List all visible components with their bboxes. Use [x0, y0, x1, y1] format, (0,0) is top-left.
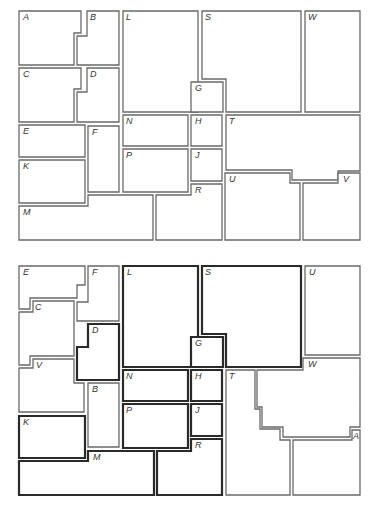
piece-label: V: [36, 360, 43, 370]
piece-t: T: [226, 115, 360, 180]
piece-label: D: [90, 69, 97, 79]
piece-k: K: [19, 416, 85, 458]
piece-a: A: [19, 11, 81, 65]
piece-w: W: [257, 358, 360, 437]
piece-w: W: [305, 11, 360, 112]
piece-label: P: [126, 150, 132, 160]
piece-n: N: [123, 115, 188, 146]
piece-shape: [19, 301, 74, 365]
top-tiling-panel: ABLSWCDGNHTEFPJKURVM: [19, 11, 360, 240]
piece-k: K: [19, 160, 85, 203]
piece-shape: [123, 149, 188, 192]
piece-b: B: [88, 383, 119, 447]
piece-label: R: [195, 185, 202, 195]
piece-shape: [123, 115, 188, 146]
piece-label: B: [90, 12, 96, 22]
piece-shape: [123, 11, 198, 112]
piece-label: F: [92, 267, 98, 277]
piece-shape: [77, 11, 119, 65]
piece-shape: [305, 266, 360, 355]
piece-label: K: [23, 161, 30, 171]
piece-g: G: [191, 82, 223, 112]
piece-label: U: [309, 267, 316, 277]
piece-h: H: [191, 115, 222, 146]
piece-label: G: [195, 338, 202, 348]
piece-shape: [226, 115, 360, 180]
piece-label: L: [126, 12, 131, 22]
piece-label: C: [23, 69, 30, 79]
piece-label: F: [92, 127, 98, 137]
piece-label: J: [194, 150, 200, 160]
piece-label: V: [343, 174, 350, 184]
piece-v: V: [303, 173, 360, 240]
piece-label: U: [229, 174, 236, 184]
piece-e: E: [19, 125, 85, 157]
piece-label: S: [205, 12, 211, 22]
piece-label: L: [127, 267, 132, 277]
piece-c: C: [19, 68, 81, 122]
piece-shape: [293, 430, 360, 495]
piece-shape: [123, 266, 198, 367]
piece-label: N: [126, 371, 133, 381]
piece-shape: [225, 173, 300, 240]
piece-label: H: [195, 116, 202, 126]
piece-h: H: [191, 370, 222, 401]
piece-label: C: [35, 302, 42, 312]
piece-j: J: [191, 149, 222, 181]
piece-label: H: [195, 371, 202, 381]
piece-p: P: [123, 149, 188, 192]
piece-shape: [123, 404, 188, 448]
piece-label: S: [205, 267, 211, 277]
piece-d: D: [77, 324, 119, 380]
piece-label: K: [23, 417, 30, 427]
piece-label: J: [194, 405, 200, 415]
piece-u: U: [305, 266, 360, 355]
piece-l: L: [123, 266, 198, 367]
piece-c: C: [19, 301, 74, 365]
piece-f: F: [88, 126, 119, 192]
figure-root: ABLSWCDGNHTEFPJKURVM EFCLSUDGWVNHTBPJAKR…: [0, 0, 377, 510]
tiling-diagram: ABLSWCDGNHTEFPJKURVM EFCLSUDGWVNHTBPJAKR…: [0, 0, 377, 510]
piece-label: G: [195, 83, 202, 93]
piece-b: B: [77, 11, 119, 65]
piece-label: A: [352, 431, 359, 441]
piece-label: E: [23, 267, 30, 277]
piece-j: J: [191, 404, 222, 436]
piece-u: U: [225, 173, 300, 240]
piece-label: P: [126, 405, 132, 415]
piece-label: M: [93, 452, 101, 462]
piece-shape: [303, 173, 360, 240]
piece-p: P: [123, 404, 188, 448]
piece-shape: [305, 11, 360, 112]
piece-label: N: [126, 116, 133, 126]
piece-shape: [257, 358, 360, 437]
piece-a: A: [293, 430, 360, 495]
piece-label: B: [92, 384, 98, 394]
piece-g: G: [191, 337, 223, 367]
piece-label: A: [22, 12, 29, 22]
piece-label: D: [92, 325, 99, 335]
piece-label: M: [23, 207, 31, 217]
piece-shape: [123, 370, 188, 401]
piece-n: N: [123, 370, 188, 401]
piece-label: E: [23, 126, 30, 136]
bottom-tiling-panel: EFCLSUDGWVNHTBPJAKRM: [19, 266, 360, 495]
piece-shape: [19, 359, 84, 412]
piece-l: L: [123, 11, 198, 112]
piece-v: V: [19, 359, 84, 412]
piece-d: D: [77, 68, 119, 122]
piece-label: R: [195, 440, 202, 450]
piece-shape: [77, 68, 119, 122]
